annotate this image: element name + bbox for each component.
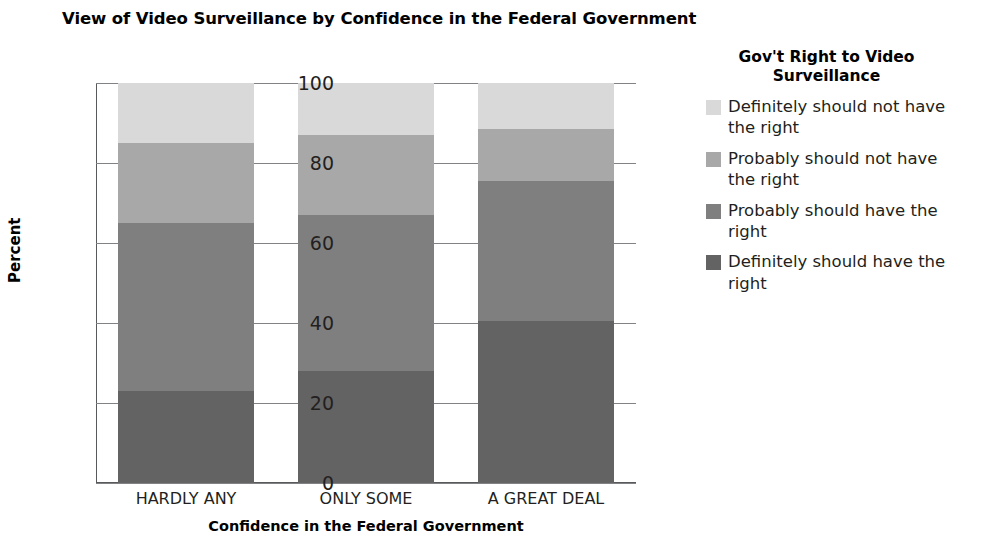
legend-item[interactable]: Probably should have the right <box>706 200 976 243</box>
bar-segment[interactable] <box>118 143 254 223</box>
legend-title: Gov't Right to Video Surveillance <box>714 48 939 87</box>
y-tick-label: 80 <box>274 152 334 174</box>
legend-items: Definitely should not have the rightProb… <box>706 96 976 295</box>
legend-item[interactable]: Probably should not have the right <box>706 148 976 191</box>
legend-item-label: Probably should not have the right <box>728 148 953 191</box>
bar-segment[interactable] <box>478 321 614 483</box>
chart-figure: View of Video Surveillance by Confidence… <box>0 0 982 544</box>
bar-segment[interactable] <box>118 391 254 483</box>
chart-title: View of Video Surveillance by Confidence… <box>62 9 696 28</box>
chart-legend: Gov't Right to Video Surveillance Defini… <box>706 48 976 303</box>
bar-segment[interactable] <box>478 83 614 129</box>
legend-item-label: Probably should have the right <box>728 200 953 243</box>
bar-segment[interactable] <box>298 135 434 215</box>
legend-swatch-icon <box>706 255 721 270</box>
y-tick-label: 40 <box>274 312 334 334</box>
bar-segment[interactable] <box>118 223 254 391</box>
legend-swatch-icon <box>706 100 721 115</box>
plot-area <box>96 83 636 483</box>
legend-item-label: Definitely should have the right <box>728 251 953 294</box>
y-tick-label: 60 <box>274 232 334 254</box>
y-axis-line <box>96 83 97 483</box>
y-axis-title: Percent <box>6 218 24 283</box>
bar-segment[interactable] <box>298 371 434 483</box>
x-tick-label: HARDLY ANY <box>96 489 276 508</box>
x-tick-label: A GREAT DEAL <box>456 489 636 508</box>
gridline-0 <box>96 483 636 484</box>
legend-swatch-icon <box>706 204 721 219</box>
legend-item[interactable]: Definitely should have the right <box>706 251 976 294</box>
y-tick-label: 100 <box>274 72 334 94</box>
legend-item-label: Definitely should not have the right <box>728 96 953 139</box>
bar-group[interactable] <box>298 83 434 483</box>
x-axis-title: Confidence in the Federal Government <box>96 518 636 534</box>
legend-swatch-icon <box>706 152 721 167</box>
x-tick-label: ONLY SOME <box>276 489 456 508</box>
y-tick-label: 20 <box>274 392 334 414</box>
bar-segment[interactable] <box>118 83 254 143</box>
bar-group[interactable] <box>478 83 614 483</box>
bar-group[interactable] <box>118 83 254 483</box>
bar-segment[interactable] <box>478 181 614 321</box>
bar-segment[interactable] <box>478 129 614 181</box>
legend-item[interactable]: Definitely should not have the right <box>706 96 976 139</box>
